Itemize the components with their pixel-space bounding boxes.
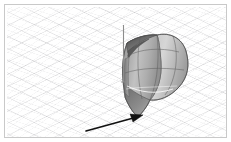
plot-region	[7, 7, 226, 137]
surface-body	[123, 34, 188, 117]
figure-frame	[4, 4, 227, 138]
figure-root: 3D parametric surface plot Grayscale sha…	[0, 0, 231, 142]
annotation-arrow	[86, 114, 143, 131]
surface-inner-wall	[124, 57, 129, 97]
surface-svg-layer	[7, 7, 226, 137]
